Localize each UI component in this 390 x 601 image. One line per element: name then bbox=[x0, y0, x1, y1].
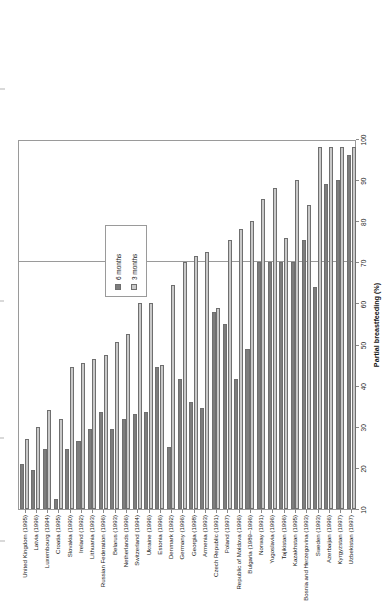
category-tick bbox=[36, 509, 37, 513]
category-tick bbox=[340, 509, 341, 513]
category-label: Bulgaria (1989–1996) bbox=[247, 515, 253, 574]
category-tick-group: Sweden (1993) bbox=[312, 141, 323, 509]
category-label: Netherlands (1996) bbox=[123, 515, 129, 567]
category-label: Sweden (1993) bbox=[315, 515, 321, 556]
category-tick-group: Denmark (1992) bbox=[165, 141, 176, 509]
category-label: Bosnia and Herzegovina (1993) bbox=[303, 515, 309, 601]
value-tick bbox=[356, 345, 359, 346]
category-tick-group: Netherlands (1996) bbox=[120, 141, 131, 509]
category-tick bbox=[194, 509, 195, 513]
scan-artifact bbox=[0, 540, 5, 542]
category-tick bbox=[81, 509, 82, 513]
category-tick-group: Tajikistan (1996) bbox=[278, 141, 289, 509]
category-label: Croatia (1995) bbox=[55, 515, 61, 554]
category-label: Latvia (1996) bbox=[33, 515, 39, 551]
category-label: Ireland (1992) bbox=[78, 515, 84, 553]
category-tick bbox=[306, 509, 307, 513]
legend-swatch-3-months bbox=[131, 284, 137, 290]
category-tick bbox=[92, 509, 93, 513]
category-tick-group: Luxembourg (1994) bbox=[42, 141, 53, 509]
category-label: Ukraine (1996) bbox=[146, 515, 152, 555]
category-tick-group: Estonia (1996) bbox=[154, 141, 165, 509]
category-tick-group: Kyrgyzstan (1997) bbox=[334, 141, 345, 509]
category-tick bbox=[171, 509, 172, 513]
category-tick bbox=[216, 509, 217, 513]
value-tick-label: 100 bbox=[360, 134, 367, 145]
category-label: Armenia (1993) bbox=[202, 515, 208, 557]
category-tick bbox=[261, 509, 262, 513]
category-tick bbox=[227, 509, 228, 513]
category-tick bbox=[250, 509, 251, 513]
category-label: Germany (1996) bbox=[179, 515, 185, 559]
value-tick-label: 20 bbox=[360, 465, 367, 472]
value-tick-label: 80 bbox=[360, 219, 367, 226]
category-tick-group: Ukraine (1996) bbox=[143, 141, 154, 509]
legend-label-3-months: 3 months bbox=[131, 254, 138, 280]
value-tick-label: 70 bbox=[360, 260, 367, 267]
category-label: Switzerland (1994) bbox=[134, 515, 140, 566]
category-tick bbox=[295, 509, 296, 513]
value-tick-label: 90 bbox=[360, 177, 367, 184]
category-tick-group: Belarus (1993) bbox=[109, 141, 120, 509]
category-label: Tajikistan (1996) bbox=[281, 515, 287, 559]
category-label: Russian Federation (1996) bbox=[100, 515, 106, 587]
category-tick-group: Poland (1997) bbox=[222, 141, 233, 509]
scan-artifact bbox=[0, 88, 5, 90]
category-label: Denmark (1992) bbox=[168, 515, 174, 559]
category-tick bbox=[115, 509, 116, 513]
category-label: Kazakhstan (1995) bbox=[292, 515, 298, 566]
value-tick bbox=[356, 139, 359, 140]
category-tick bbox=[272, 509, 273, 513]
category-tick bbox=[47, 509, 48, 513]
legend-item-3-months: 3 months bbox=[126, 232, 142, 290]
scan-artifact bbox=[0, 300, 4, 302]
category-tick-group: Russian Federation (1996) bbox=[98, 141, 109, 509]
category-tick bbox=[25, 509, 26, 513]
category-tick-group: Azerbaijan (1996) bbox=[323, 141, 334, 509]
category-tick bbox=[329, 509, 330, 513]
category-label: Estonia (1996) bbox=[157, 515, 163, 555]
category-tick bbox=[239, 509, 240, 513]
value-tick bbox=[356, 303, 359, 304]
value-tick bbox=[356, 468, 359, 469]
category-tick-group: Armenia (1993) bbox=[199, 141, 210, 509]
chart-legend: 6 months 3 months bbox=[105, 225, 147, 297]
category-tick-group: Ireland (1992) bbox=[75, 141, 86, 509]
category-tick bbox=[103, 509, 104, 513]
category-tick-group: Slovakia (1990) bbox=[64, 141, 75, 509]
value-tick bbox=[356, 509, 359, 510]
value-tick-label: 30 bbox=[360, 424, 367, 431]
category-label: Poland (1997) bbox=[224, 515, 230, 553]
category-label: Azerbaijan (1996) bbox=[326, 515, 332, 563]
value-tick-label: 50 bbox=[360, 342, 367, 349]
category-tick bbox=[182, 509, 183, 513]
category-label: Kyrgyzstan (1997) bbox=[337, 515, 343, 564]
value-tick bbox=[356, 221, 359, 222]
scan-artifact bbox=[0, 437, 4, 439]
category-label: Luxembourg (1994) bbox=[44, 515, 50, 568]
category-tick bbox=[126, 509, 127, 513]
category-label: Norway (1991) bbox=[258, 515, 264, 555]
value-axis-title: Partial breastfeeding (%) bbox=[372, 140, 381, 510]
value-tick bbox=[356, 427, 359, 428]
category-tick bbox=[351, 509, 352, 513]
value-tick-label: 60 bbox=[360, 301, 367, 308]
category-tick bbox=[70, 509, 71, 513]
category-tick-group: Norway (1991) bbox=[256, 141, 267, 509]
value-tick-label: 10 bbox=[360, 506, 367, 513]
category-tick-group: Czech Republic (1991) bbox=[211, 141, 222, 509]
category-tick bbox=[149, 509, 150, 513]
category-tick-group: Yugoslavia (1996) bbox=[267, 141, 278, 509]
category-tick-group: Switzerland (1994) bbox=[132, 141, 143, 509]
category-tick-group: Kazakhstan (1995) bbox=[289, 141, 300, 509]
category-label: Lithuania (1993) bbox=[89, 515, 95, 559]
category-label: Yugoslavia (1996) bbox=[269, 515, 275, 564]
category-tick bbox=[58, 509, 59, 513]
category-tick-group: Croatia (1995) bbox=[53, 141, 64, 509]
category-tick bbox=[284, 509, 285, 513]
category-label: Belarus (1993) bbox=[112, 515, 118, 555]
category-tick-group: Lithuania (1993) bbox=[87, 141, 98, 509]
category-label: Uzbekistan (1997) bbox=[348, 515, 354, 564]
